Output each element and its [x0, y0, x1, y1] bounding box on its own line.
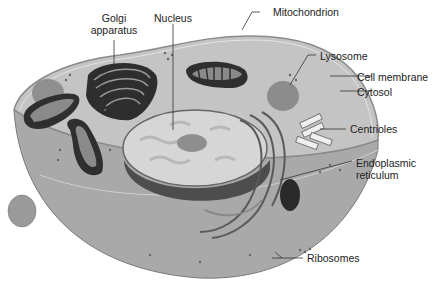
- label-golgi-line2: apparatus: [90, 24, 138, 36]
- cell-diagram: [0, 0, 438, 293]
- label-centrioles: Centrioles: [350, 123, 397, 135]
- label-er-line2: reticulum: [356, 169, 416, 181]
- label-er-line1: Endoplasmic: [356, 157, 416, 169]
- label-cytosol: Cytosol: [357, 86, 392, 98]
- label-nucleus: Nucleus: [154, 12, 192, 24]
- label-er: Endoplasmic reticulum: [356, 157, 416, 181]
- label-lysosome: Lysosome: [320, 50, 367, 62]
- label-golgi: Golgi apparatus: [90, 12, 138, 36]
- label-cell-membrane: Cell membrane: [357, 71, 428, 83]
- label-ribosomes: Ribosomes: [307, 252, 360, 264]
- mitochondrion-right: [280, 179, 300, 211]
- lysosome-right: [267, 81, 299, 111]
- lysosome-bottom: [8, 195, 36, 227]
- nucleolus: [177, 134, 207, 152]
- label-mitochondrion: Mitochondrion: [273, 6, 339, 18]
- label-golgi-line1: Golgi: [90, 12, 138, 24]
